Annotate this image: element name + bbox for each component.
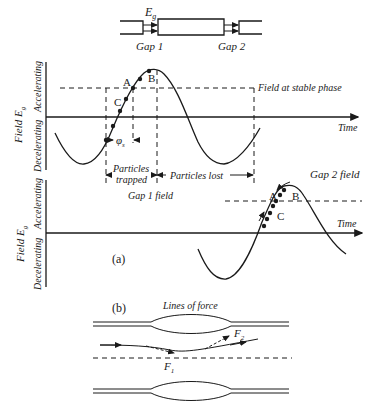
lines-of-force-title: Lines of force [162,300,218,311]
gap2-field-plot: A B C Gap 2 field Time (a) Field Eg Acce… [14,168,362,291]
gap1-label: Gap 1 [136,40,163,52]
point-b-label-2: B [292,190,299,202]
decelerating-label: Decelerating [32,120,43,173]
panel-a-label: (a) [112,252,125,266]
time-label-2: Time [337,218,357,229]
particle-dot [262,224,266,228]
particles-trapped-label: Particles [112,163,149,174]
particle-dot [118,109,122,113]
accelerating-label: Accelerating [32,61,43,113]
particle-dot [111,124,115,128]
drift-tube-schematic: Eg Gap 1 Gap 2 [120,5,262,52]
stable-phase-label: Field at stable phase [257,82,342,93]
gap-field-label: Eg [144,5,156,21]
y-axis-label-2: Field Eg [14,225,29,263]
phase-stability-diagram: Eg Gap 1 Gap 2 Field at stable phase A B… [0,0,372,412]
decelerating-label-2: Decelerating [32,238,43,291]
trajectory-line [100,339,258,351]
gap1-field-label: Gap 1 field [128,190,174,201]
gap2-label: Gap 2 [218,40,246,52]
time-label: Time [338,122,358,133]
point-a-label: A [123,76,131,88]
particles-trapped-label-2: trapped [116,174,148,185]
stable-phase-symbol: φs [116,134,125,149]
particle-dot [131,86,135,90]
accelerating-label-2: Accelerating [32,178,43,230]
point-c-label-2: C [277,210,284,222]
y-axis-label: Field Eg [12,106,27,144]
point-a-label-2: A [269,190,277,202]
particle-dot [278,193,282,197]
force1-label: F1 [163,360,174,375]
particle-dot [124,97,128,101]
gap1-field-plot: Field at stable phase A B C φs Time Part… [12,61,358,201]
particles-lost-label: Particles lost [169,170,223,181]
particle-dot [265,217,269,221]
lines-of-force-panel: (b) Lines of force F1 F2 [93,300,292,401]
particle-dot [268,211,272,215]
point-b-label: B [148,72,155,84]
particle-dot [138,77,142,81]
gap2-field-label: Gap 2 field [310,168,360,180]
particle-dot [282,188,286,192]
particle-dot [271,204,275,208]
point-c-label: C [114,96,121,108]
force2-label: F2 [233,327,245,342]
panel-b-label: (b) [112,301,126,315]
